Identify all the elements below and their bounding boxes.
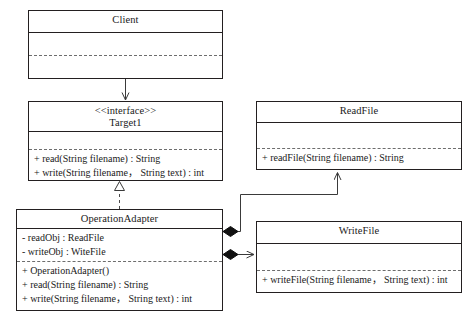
class-name-operationadapter: OperationAdapter xyxy=(19,213,220,225)
operation-readfile: + readFile(String filename) : String xyxy=(262,151,456,165)
class-operations-writefile: + writeFile(String filename， String text… xyxy=(257,271,461,292)
class-attributes-writefile xyxy=(257,244,461,270)
relationship-adapter-composes-writefile xyxy=(223,250,254,260)
class-operations-operationadapter: + OperationAdapter() + read(String filen… xyxy=(17,262,222,310)
class-name-readfile: ReadFile xyxy=(259,105,459,117)
uml-class-diagram: Client <<interface>> Target1 + read(Stri… xyxy=(0,0,473,319)
operation-read: + read(String filename) : String xyxy=(34,152,217,166)
class-name-client: Client xyxy=(31,14,220,26)
operation-write: + write(String filename， String text) : … xyxy=(34,166,217,180)
class-attributes-operationadapter: - readObj : ReadFile - writeObj : WiteFi… xyxy=(17,229,222,261)
class-box-operationadapter[interactable]: OperationAdapter - readObj : ReadFile - … xyxy=(16,209,223,311)
stereotype-interface: <<interface>> xyxy=(31,105,220,117)
class-header-writefile: WriteFile xyxy=(257,222,461,244)
hollow-triangle-arrowhead xyxy=(115,182,125,191)
filled-diamond-readfile xyxy=(223,227,238,237)
empty-attribute-row xyxy=(262,246,456,260)
class-attributes-readfile xyxy=(257,123,461,148)
empty-attribute-row xyxy=(34,134,217,148)
class-name-writefile: WriteFile xyxy=(259,225,459,237)
attribute-writeobj: - writeObj : WiteFile xyxy=(22,245,217,259)
relationship-adapter-realizes-target1 xyxy=(115,182,125,210)
class-operations-readfile: + readFile(String filename) : String xyxy=(257,149,461,169)
filled-diamond-writefile xyxy=(223,250,238,260)
class-header-operationadapter: OperationAdapter xyxy=(17,210,222,229)
operation-read: + read(String filename) : String xyxy=(22,278,217,292)
empty-attribute-row xyxy=(34,35,217,49)
class-box-readfile[interactable]: ReadFile + readFile(String filename) : S… xyxy=(256,101,462,170)
class-header-client: Client xyxy=(29,11,222,33)
operation-write: + write(String filename， String text) : … xyxy=(22,292,217,306)
class-name-target1: Target1 xyxy=(31,117,220,129)
operation-constructor: + OperationAdapter() xyxy=(22,264,217,278)
class-box-writefile[interactable]: WriteFile + writeFile(String filename， S… xyxy=(256,221,462,293)
attribute-readobj: - readObj : ReadFile xyxy=(22,231,217,245)
class-header-readfile: ReadFile xyxy=(257,102,461,123)
class-operations-client xyxy=(29,56,222,78)
class-box-target1[interactable]: <<interface>> Target1 + read(String file… xyxy=(28,101,223,181)
class-operations-target1: + read(String filename) : String + write… xyxy=(29,150,222,182)
operation-writefile: + writeFile(String filename， String text… xyxy=(262,273,456,287)
class-header-target1: <<interface>> Target1 xyxy=(29,102,222,132)
class-attributes-target1 xyxy=(29,132,222,149)
class-box-client[interactable]: Client xyxy=(28,10,223,79)
class-attributes-client xyxy=(29,33,222,55)
empty-operation-row xyxy=(34,58,217,72)
empty-attribute-row xyxy=(262,125,456,139)
